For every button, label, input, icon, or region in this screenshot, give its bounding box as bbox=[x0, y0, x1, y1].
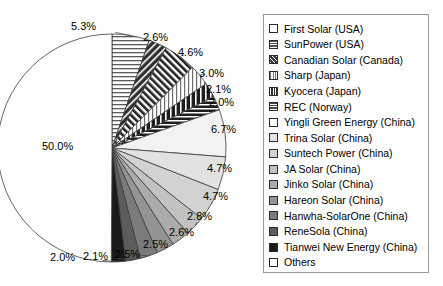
pie-chart-figure: 5.3%2.6%4.6%3.0%2.1%2.0%6.7%4.7%4.7%2.8%… bbox=[0, 0, 443, 286]
pie-percent-label: 4.6% bbox=[178, 47, 203, 58]
legend-label: Tianwei New Energy (China) bbox=[284, 242, 417, 253]
legend-label: Hareon Solar (China) bbox=[284, 195, 383, 206]
legend-swatch-white-plain bbox=[269, 118, 278, 127]
legend-swatch-dark-horizontal-bands bbox=[269, 40, 278, 49]
legend-item[interactable]: Sharp (Japan) bbox=[269, 68, 428, 84]
pie-percent-label: 3.0% bbox=[199, 68, 224, 79]
legend-label: Sharp (Japan) bbox=[284, 70, 351, 81]
legend-item[interactable]: Trina Solar (China) bbox=[269, 130, 428, 146]
pie-percent-label: 50.0% bbox=[42, 141, 73, 152]
legend-label: Kyocera (Japan) bbox=[284, 86, 361, 97]
pie-percent-label: 4.7% bbox=[207, 163, 232, 174]
pie-percent-label: 2.0% bbox=[209, 97, 234, 108]
legend-swatch-white-plain bbox=[269, 24, 278, 33]
legend-label: JA Solar (China) bbox=[284, 164, 360, 175]
legend-swatch-horizontal-bands bbox=[269, 102, 278, 111]
legend-swatch-dark-vertical-bands bbox=[269, 87, 278, 96]
legend-item[interactable]: Yingli Green Energy (China) bbox=[269, 115, 428, 131]
legend-label: REC (Norway) bbox=[284, 102, 352, 113]
pie-percent-label: 2.8% bbox=[187, 211, 212, 222]
legend-item[interactable]: Tianwei New Energy (China) bbox=[269, 239, 428, 255]
legend-swatch-very-light-gray bbox=[269, 133, 278, 142]
legend-label: Yingli Green Energy (China) bbox=[284, 117, 415, 128]
legend-label: Canadian Solar (Canada) bbox=[284, 55, 403, 66]
legend-swatch-darker-gray bbox=[269, 227, 278, 236]
legend-swatch-dark-diagonal-hatch bbox=[269, 55, 278, 64]
legend-swatch-light-mid-gray bbox=[269, 165, 278, 174]
legend-item[interactable]: First Solar (USA) bbox=[269, 21, 428, 37]
pie-percent-label: 5.3% bbox=[71, 21, 96, 32]
pie-percent-label: 2.1% bbox=[206, 84, 231, 95]
legend: First Solar (USA)SunPower (USA)Canadian … bbox=[263, 14, 429, 273]
legend-item[interactable]: Hanwha-SolarOne (China) bbox=[269, 208, 428, 224]
legend-label: Suntech Power (China) bbox=[284, 148, 393, 159]
legend-item[interactable]: Suntech Power (China) bbox=[269, 146, 428, 162]
pie-percent-label: 2.6% bbox=[143, 32, 168, 43]
pie-percent-label: 4.7% bbox=[203, 191, 228, 202]
legend-label: Jinko Solar (China) bbox=[284, 179, 373, 190]
legend-swatch-light-vertical-lines bbox=[269, 71, 278, 80]
legend-swatch-mid-gray bbox=[269, 180, 278, 189]
pie-percent-label: 2.6% bbox=[169, 227, 194, 238]
legend-rows: First Solar (USA)SunPower (USA)Canadian … bbox=[269, 21, 428, 271]
pie-percent-label: 2.1% bbox=[83, 251, 108, 262]
legend-item[interactable]: REC (Norway) bbox=[269, 99, 428, 115]
legend-item[interactable]: JA Solar (China) bbox=[269, 161, 428, 177]
pie-percent-label: 2.5% bbox=[143, 239, 168, 250]
legend-label: Trina Solar (China) bbox=[284, 133, 372, 144]
pie-svg bbox=[0, 0, 262, 286]
legend-item[interactable]: SunPower (USA) bbox=[269, 37, 428, 53]
legend-item[interactable]: Others bbox=[269, 255, 428, 271]
legend-item[interactable]: Canadian Solar (Canada) bbox=[269, 52, 428, 68]
legend-swatch-light-gray bbox=[269, 149, 278, 158]
legend-label: First Solar (USA) bbox=[284, 24, 363, 35]
pie-percent-label: 6.7% bbox=[211, 124, 236, 135]
legend-swatch-mid-dark-gray bbox=[269, 196, 278, 205]
legend-label: ReneSola (China) bbox=[284, 226, 367, 237]
legend-swatch-white-plain bbox=[269, 258, 278, 267]
legend-item[interactable]: Hareon Solar (China) bbox=[269, 193, 428, 209]
legend-swatch-dark-gray bbox=[269, 211, 278, 220]
legend-label: Others bbox=[284, 257, 316, 268]
legend-label: Hanwha-SolarOne (China) bbox=[284, 211, 408, 222]
legend-swatch-near-black bbox=[269, 243, 278, 252]
legend-item[interactable]: ReneSola (China) bbox=[269, 224, 428, 240]
legend-item[interactable]: Jinko Solar (China) bbox=[269, 177, 428, 193]
legend-item[interactable]: Kyocera (Japan) bbox=[269, 83, 428, 99]
pie-percent-label: 2.5% bbox=[115, 249, 140, 260]
pie-percent-label: 2.0% bbox=[50, 252, 75, 263]
pie-plot-area: 5.3%2.6%4.6%3.0%2.1%2.0%6.7%4.7%4.7%2.8%… bbox=[0, 0, 262, 286]
legend-label: SunPower (USA) bbox=[284, 39, 364, 50]
